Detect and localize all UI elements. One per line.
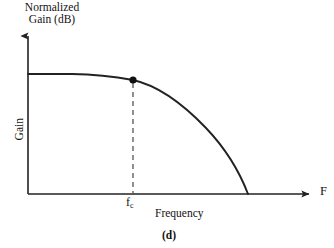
cutoff-frequency-subscript: c: [130, 201, 134, 210]
y-axis-title-line1: Normalized: [25, 1, 79, 13]
gain-response-curve: [28, 74, 248, 194]
cutoff-point-marker: [129, 76, 136, 83]
x-axis-symbol-label: F: [320, 185, 327, 199]
x-axis-title: Frequency: [155, 207, 204, 219]
cutoff-frequency-label: fc: [126, 196, 134, 209]
y-axis-title-line2: Gain (dB): [12, 13, 92, 25]
y-axis-inner-label: Gain: [13, 101, 25, 157]
panel-caption: (d): [162, 229, 176, 241]
y-axis-title: Normalized Gain (dB): [12, 1, 92, 26]
filter-response-figure: Normalized Gain (dB) Gain fc Frequency F…: [0, 0, 334, 248]
